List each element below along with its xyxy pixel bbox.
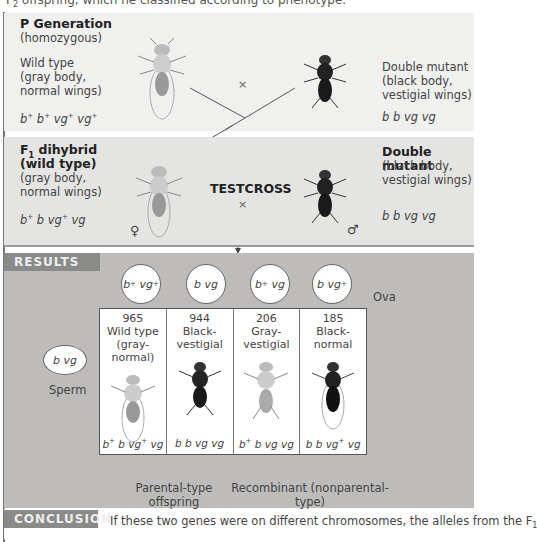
offspring-genotype-4: b b vg+ vg	[300, 435, 366, 451]
black-vestigial-fly-icon	[175, 357, 225, 417]
f1-right-phenotype: (black body, vestigial wings)	[382, 159, 472, 187]
offspring-genotype-1: b+ b vg+ vg	[100, 435, 166, 451]
testcross-label: TESTCROSS	[210, 182, 291, 196]
f1-right-genotype: b b vg vg	[382, 209, 436, 223]
offspring-col-4: 185 Black- normal b b vg+ vg	[300, 309, 366, 454]
offspring-col-2: 944 Black- vestigial b b vg vg	[167, 309, 234, 454]
offspring-table: 965 Wild type (gray-normal) b+ b vg+ vg …	[99, 308, 367, 455]
offspring-col-1: 965 Wild type (gray-normal) b+ b vg+ vg	[100, 309, 167, 454]
ova-label: Ova	[373, 290, 396, 304]
conclusion-tag: CONCLUSION	[4, 510, 98, 528]
results-tag: RESULTS	[4, 253, 100, 271]
f1-female-fly-icon	[132, 160, 187, 240]
sperm-label: Sperm	[49, 383, 86, 397]
offspring-genotype-3: b+ b vg vg	[234, 435, 300, 451]
offspring-col-3: 206 Gray- vestigial b+ b vg vg	[234, 309, 301, 454]
f1-cross-symbol: ×	[238, 198, 247, 211]
parental-type-label: Parental-type offspring	[134, 481, 214, 509]
f1-left-phenotype: (gray body, normal wings)	[20, 171, 102, 199]
ova-circle-4: b vg+	[312, 264, 352, 304]
sperm-circle: b vg	[43, 345, 87, 375]
f1-title-2: (wild type)	[20, 157, 96, 171]
offspring-genotype-2: b b vg vg	[167, 437, 233, 450]
double-mutant-fly-icon	[300, 50, 350, 112]
f1-left-genotype: b+ b vg+ vg	[20, 210, 86, 227]
wild-type-fly-icon	[132, 38, 192, 120]
conclusion-text: If these two genes were on different chr…	[110, 514, 537, 533]
ova-circle-1: b+ vg+	[121, 264, 161, 304]
gray-vestigial-fly-icon	[241, 357, 291, 422]
black-normal-fly-icon	[308, 357, 358, 432]
ova-circle-2: b vg	[186, 264, 226, 304]
f1-male-fly-icon	[300, 165, 350, 227]
ova-circle-3: b+ vg	[250, 264, 290, 304]
